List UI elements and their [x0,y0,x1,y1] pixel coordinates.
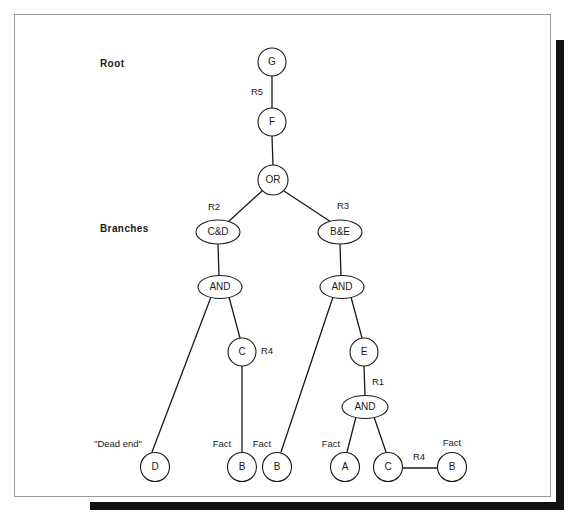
node-label-AND_L: AND [209,281,230,292]
node-label-OR: OR [266,174,281,185]
edge-label-fact_B3: Fact [443,437,462,448]
node-label-B2: B [274,461,281,472]
tree-edge-OR-BE [284,191,331,222]
tree-edge-E-ANDB [364,366,365,396]
edge-label-R5: R5 [251,86,263,97]
tree-edge-ANDL-D [152,297,211,452]
tree-edge-OR-CD [228,191,262,222]
edge-label-R4_mid: R4 [261,345,273,356]
tree-edge-ANDB-Cbot [374,417,386,452]
edge-label-dead_end: "Dead end" [94,438,142,449]
and-or-tree-diagram: GFORC&DB&EANDANDCEANDDBBACB R5R2R3R4R1R4… [0,0,570,532]
node-label-C_bot: C [384,461,391,472]
edge-label-R2: R2 [208,201,220,212]
tree-node-AND_B[interactable]: AND [342,396,388,419]
tree-node-OR[interactable]: OR [258,165,288,195]
tree-node-C_mid[interactable]: C [228,338,256,366]
node-label-B3: B [449,461,456,472]
tree-node-C_bot[interactable]: C [374,453,403,482]
tree-edge-ANDR-B2 [281,297,333,452]
tree-node-AND_R[interactable]: AND [320,276,364,299]
node-label-F: F [269,116,275,127]
node-label-G: G [268,56,276,67]
edge-label-fact_A: Fact [322,438,341,449]
node-label-A: A [342,461,349,472]
tree-node-B3[interactable]: B [438,453,467,482]
edge-label-fact_B2: Fact [253,438,272,449]
tree-node-AND_L[interactable]: AND [198,276,242,299]
tree-node-F[interactable]: F [258,108,286,136]
node-label-AND_R: AND [331,281,352,292]
node-label-BE: B&E [330,226,350,237]
node-label-C_mid: C [238,346,245,357]
node-label-AND_B: AND [354,401,375,412]
tree-edge-ANDB-A [347,417,356,452]
tree-node-B1[interactable]: B [228,453,257,482]
tree-nodes: GFORC&DB&EANDANDCEANDDBBACB [141,48,467,482]
tree-edge-F-OR [272,136,273,165]
tree-node-D[interactable]: D [141,453,170,482]
edge-label-R1: R1 [372,376,384,387]
tree-node-E[interactable]: E [350,338,378,366]
tree-node-A[interactable]: A [331,453,360,482]
figure-page: Root Branches GFORC&DB&EANDANDCEANDDBBAC… [0,0,570,532]
tree-edge-labels: R5R2R3R4R1R4"Dead end"FactFactFactFact [94,86,462,462]
tree-edge-ANDL-Cmid [229,297,240,338]
edge-label-R4_bot: R4 [413,451,425,462]
node-label-E: E [361,346,368,357]
tree-node-BE[interactable]: B&E [318,220,362,244]
edge-label-fact_B1: Fact [213,438,232,449]
node-label-B1: B [239,461,246,472]
tree-edge-CD-ANDL [218,244,219,276]
node-label-D: D [151,461,158,472]
tree-node-B2[interactable]: B [263,453,292,482]
tree-node-CD[interactable]: C&D [196,220,240,244]
tree-edges [152,76,438,468]
tree-node-G[interactable]: G [258,48,286,76]
tree-edge-BE-ANDR [340,244,341,276]
tree-edge-ANDR-E [351,297,362,338]
node-label-CD: C&D [207,226,228,237]
edge-label-R3: R3 [337,200,349,211]
